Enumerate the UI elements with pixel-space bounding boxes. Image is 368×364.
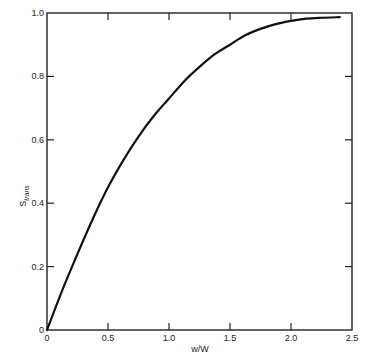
x-tick-label: 2.5 <box>346 333 359 343</box>
y-tick-label: 0.2 <box>31 262 44 272</box>
x-tick-label: 1.5 <box>224 333 237 343</box>
series-curve <box>47 17 340 330</box>
line-chart: 00.51.01.52.02.5 00.20.40.60.81.0 w/W St… <box>0 0 368 364</box>
series-line <box>47 17 340 330</box>
y-axis: 00.20.40.60.81.0 <box>31 8 352 335</box>
x-axis-title: w/W <box>190 344 209 354</box>
y-tick-label: 0 <box>39 325 44 335</box>
x-tick-label: 2.0 <box>285 333 298 343</box>
x-tick-label: 0.5 <box>102 333 115 343</box>
y-tick-label: 0.8 <box>31 71 44 81</box>
x-axis: 00.51.01.52.02.5 <box>44 13 358 343</box>
y-tick-label: 0.6 <box>31 135 44 145</box>
x-tick-label: 0 <box>44 333 49 343</box>
y-tick-label: 1.0 <box>31 8 44 18</box>
svg-text:Strans: Strans <box>18 185 30 207</box>
y-axis-title: Strans <box>18 185 30 207</box>
plot-frame <box>47 13 352 330</box>
x-tick-label: 1.0 <box>163 333 176 343</box>
y-tick-label: 0.4 <box>31 198 44 208</box>
